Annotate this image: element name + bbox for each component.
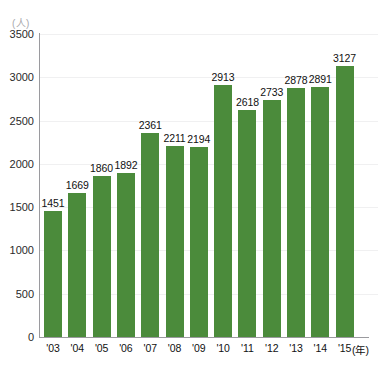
x-axis-tick-label: '04 xyxy=(64,342,90,354)
bar-value-label: 3127 xyxy=(328,52,362,64)
bar xyxy=(238,110,256,337)
bar-chart-figure: (人) 0500100015002000250030003500 '03'04'… xyxy=(0,0,380,368)
bar-value-label: 2913 xyxy=(206,71,240,83)
x-axis-tick-label: '12 xyxy=(259,342,285,354)
x-axis-tick-label: '06 xyxy=(113,342,139,354)
bar xyxy=(263,100,281,337)
x-axis-tick-label: '05 xyxy=(89,342,115,354)
bar-value-label: 2891 xyxy=(303,73,337,85)
x-axis-tick-label: '03 xyxy=(40,342,66,354)
gridline xyxy=(40,34,378,35)
bar xyxy=(166,146,184,337)
y-axis-tick-label: 2500 xyxy=(0,115,34,127)
y-axis-tick-label: 3500 xyxy=(0,28,34,40)
x-axis-unit-label: (年) xyxy=(352,342,369,357)
bar xyxy=(117,173,135,337)
bar xyxy=(311,87,329,337)
x-axis-tick-label: '09 xyxy=(186,342,212,354)
x-axis-tick-label: '07 xyxy=(137,342,163,354)
bar-value-label: 2733 xyxy=(255,86,289,98)
bar xyxy=(287,88,305,337)
y-axis-tick-label: 0 xyxy=(0,331,34,343)
x-axis-tick-label: '13 xyxy=(283,342,309,354)
x-axis-tick-label: '08 xyxy=(162,342,188,354)
bar xyxy=(44,211,62,337)
bar xyxy=(214,85,232,337)
y-axis-tick-label: 500 xyxy=(0,288,34,300)
bar-value-label: 2194 xyxy=(182,133,216,145)
y-axis-tick-label: 1000 xyxy=(0,244,34,256)
bar-value-label: 2361 xyxy=(133,119,167,131)
chart-title xyxy=(90,0,340,8)
bar xyxy=(68,193,86,337)
bar-value-label: 1451 xyxy=(36,197,70,209)
x-axis-tick-label: '10 xyxy=(210,342,236,354)
bar xyxy=(93,176,111,337)
x-axis-line xyxy=(39,337,369,338)
x-axis-tick-label: '11 xyxy=(234,342,260,354)
y-axis-tick-label: 2000 xyxy=(0,158,34,170)
bar xyxy=(336,66,354,337)
y-axis-tick-label: 3000 xyxy=(0,71,34,83)
y-axis-tick-label: 1500 xyxy=(0,201,34,213)
bar-value-label: 1892 xyxy=(109,159,143,171)
bar xyxy=(141,133,159,337)
bar xyxy=(190,147,208,337)
bar-value-label: 1669 xyxy=(60,179,94,191)
x-axis-tick-label: '14 xyxy=(307,342,333,354)
